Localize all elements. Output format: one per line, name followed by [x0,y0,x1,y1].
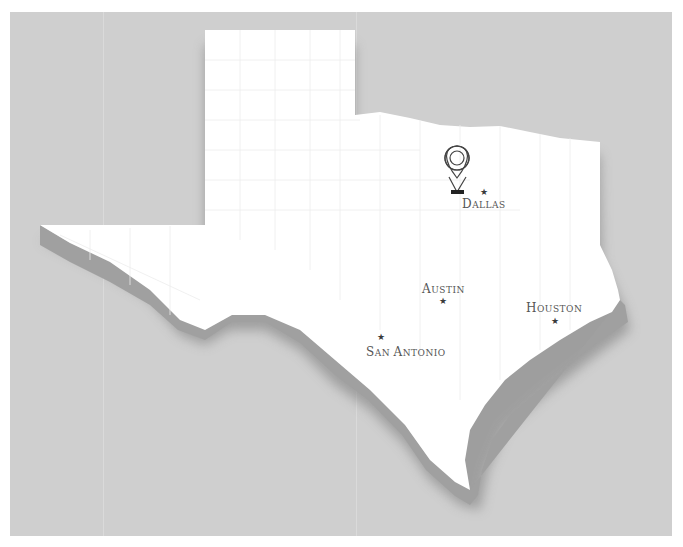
star-icon: ★ [439,297,447,306]
texas-land [40,30,620,490]
city-label-san-antonio: SAN ANTONIO [366,345,446,359]
city-label-houston: HOUSTON [526,301,582,315]
star-icon: ★ [551,317,559,326]
star-icon: ★ [480,188,488,197]
city-label-austin: AUSTIN [422,282,465,296]
texas-map [0,0,683,547]
city-label-dallas: DALLAS [462,197,506,211]
star-icon: ★ [377,333,385,342]
